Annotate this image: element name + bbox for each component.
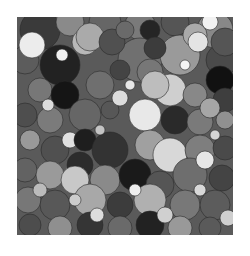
circle bbox=[196, 151, 214, 169]
circle bbox=[194, 184, 206, 196]
circle bbox=[19, 214, 41, 236]
circle bbox=[141, 71, 169, 99]
circle bbox=[157, 207, 173, 223]
circle bbox=[92, 132, 128, 168]
circle bbox=[170, 190, 200, 220]
circle bbox=[90, 208, 104, 222]
circle bbox=[129, 184, 141, 196]
circle bbox=[216, 111, 234, 129]
circle bbox=[19, 32, 45, 58]
circle bbox=[180, 60, 190, 70]
circle bbox=[69, 99, 101, 131]
artwork-svg bbox=[0, 0, 250, 256]
circle bbox=[33, 183, 47, 197]
circle bbox=[107, 192, 133, 218]
circle-packing-artwork bbox=[0, 0, 250, 256]
circle bbox=[209, 165, 235, 191]
circle bbox=[200, 98, 220, 118]
circle bbox=[110, 60, 130, 80]
circle bbox=[144, 37, 166, 59]
circle bbox=[129, 99, 161, 131]
circle bbox=[28, 78, 52, 102]
circle bbox=[95, 125, 105, 135]
circle bbox=[210, 130, 220, 140]
circle bbox=[125, 80, 135, 90]
circle bbox=[42, 99, 54, 111]
circle bbox=[56, 49, 68, 61]
circle bbox=[20, 130, 40, 150]
circle bbox=[116, 21, 134, 39]
circle bbox=[69, 194, 81, 206]
circle bbox=[112, 90, 128, 106]
circle bbox=[188, 32, 208, 52]
circle bbox=[86, 71, 114, 99]
circle bbox=[161, 106, 189, 134]
